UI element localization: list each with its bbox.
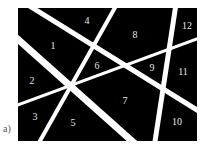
region-label: 12: [182, 20, 192, 31]
region-label: 5: [71, 117, 76, 128]
region-label: 2: [30, 75, 35, 86]
panel-label: a): [3, 124, 11, 134]
region-label: 8: [133, 29, 138, 40]
region-label: 3: [33, 111, 38, 122]
region-label: 10: [172, 116, 182, 127]
region-label: 11: [178, 66, 188, 77]
region-label: 1: [51, 40, 56, 51]
region-label: 4: [85, 15, 90, 26]
region-label: 7: [123, 95, 128, 106]
partition-diagram: 123456789101112: [0, 0, 210, 157]
region-label: 6: [95, 60, 100, 71]
region-label: 9: [150, 62, 155, 73]
